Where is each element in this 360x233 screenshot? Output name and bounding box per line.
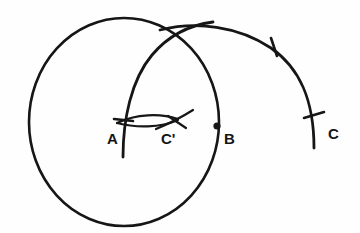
point-label-a: A: [107, 131, 118, 146]
point-marker-b: [213, 122, 220, 129]
point-label-c: C: [328, 126, 339, 141]
tick-mark-at-c: [304, 112, 324, 118]
construction-diagram: A C' B C: [0, 0, 360, 233]
point-label-c-prime: C': [161, 131, 175, 146]
diagram-canvas: [0, 0, 360, 233]
right-arc: [160, 26, 314, 148]
main-circle: [29, 18, 219, 226]
point-label-b: B: [224, 131, 235, 146]
